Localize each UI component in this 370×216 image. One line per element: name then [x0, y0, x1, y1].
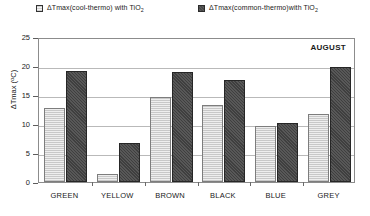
bar	[202, 105, 223, 182]
x-axis-label-yellow: YELLOW	[101, 191, 133, 200]
bar	[44, 108, 65, 182]
bar-group	[303, 39, 356, 182]
bar	[97, 174, 118, 182]
bar	[308, 114, 329, 182]
x-tick-separator	[145, 182, 146, 186]
bar-group	[198, 39, 251, 182]
legend-swatch-icon-light	[36, 5, 43, 12]
x-axis-label-black: BLACK	[210, 191, 236, 200]
legend-label-cool-thermo: ΔTmax(cool-thermo) with TiO2	[47, 4, 144, 12]
plot-area: AUGUST	[38, 38, 355, 183]
y-tick-label-10: 10	[8, 121, 30, 129]
x-axis-label-blue: BLUE	[266, 191, 286, 200]
bar-chart: ΔTmax(cool-thermo) with TiO2 ΔTmax(commo…	[0, 0, 370, 216]
legend-label-common-thermo: ΔTmax(common-thermo)with TiO2	[209, 4, 318, 12]
bar-group	[39, 39, 92, 182]
legend-entry-common-thermo: ΔTmax(common-thermo)with TiO2	[198, 4, 318, 12]
legend-swatch-icon-dark	[198, 5, 205, 12]
bar	[150, 97, 171, 182]
x-axis-label-green: GREEN	[51, 191, 79, 200]
y-tick-0	[33, 183, 38, 184]
bar	[66, 71, 87, 182]
y-axis-title: ΔTmax (oC)	[9, 50, 18, 130]
bar-group	[250, 39, 303, 182]
bar-group	[92, 39, 145, 182]
bar-group	[145, 39, 198, 182]
x-tick-separator	[92, 182, 93, 186]
y-tick-label-20: 20	[8, 63, 30, 71]
y-tick-label-0: 0	[8, 179, 30, 187]
bar	[330, 67, 351, 182]
bar	[255, 126, 276, 182]
x-tick-separator	[303, 182, 304, 186]
x-tick-separator	[250, 182, 251, 186]
x-tick-separator	[198, 182, 199, 186]
y-tick-label-5: 5	[8, 150, 30, 158]
x-axis-label-grey: GREY	[318, 191, 340, 200]
bar	[277, 123, 298, 182]
y-tick-label-25: 25	[8, 34, 30, 42]
chart-legend: ΔTmax(cool-thermo) with TiO2 ΔTmax(commo…	[0, 3, 370, 19]
x-axis-label-brown: BROWN	[155, 191, 185, 200]
bar	[172, 72, 193, 182]
legend-entry-cool-thermo: ΔTmax(cool-thermo) with TiO2	[36, 4, 144, 12]
bar	[119, 143, 140, 182]
bar	[224, 80, 245, 182]
y-tick-label-15: 15	[8, 92, 30, 100]
